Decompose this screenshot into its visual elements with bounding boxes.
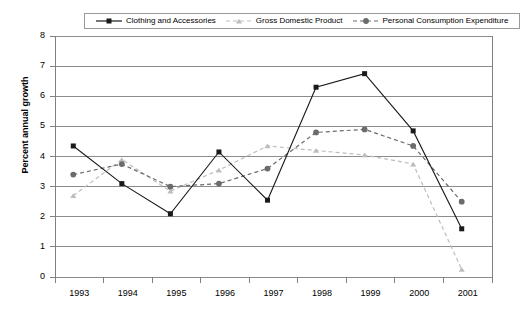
legend-entry: Personal Consumption Expenditure <box>353 16 509 26</box>
data-point-square <box>411 128 416 133</box>
data-point-square <box>168 211 173 216</box>
y-axis-tick-label: 1 <box>21 242 45 251</box>
data-point-triangle <box>216 168 222 173</box>
x-axis-tick-label: 1997 <box>254 289 294 298</box>
data-point-square <box>216 149 221 154</box>
legend-swatch <box>96 16 122 26</box>
data-point-square <box>71 143 76 148</box>
data-point-square <box>265 198 270 203</box>
y-axis-tick-label: 2 <box>21 212 45 221</box>
x-axis-tick-label: 1994 <box>108 289 148 298</box>
y-axis-tick-label: 0 <box>21 272 45 281</box>
legend-swatch <box>226 16 252 26</box>
data-point-square <box>459 226 464 231</box>
data-point-square <box>362 71 367 76</box>
legend-marker-icon <box>226 16 252 26</box>
x-axis-tick-label: 1993 <box>59 289 99 298</box>
legend-entry: Gross Domestic Product <box>226 16 343 26</box>
x-axis-tick-label: 2001 <box>448 289 488 298</box>
y-axis-tick-label: 7 <box>21 61 45 70</box>
y-axis-tick-label: 6 <box>21 91 45 100</box>
y-axis-tick-label: 3 <box>21 182 45 191</box>
legend-label: Clothing and Accessories <box>126 16 216 26</box>
data-point-circle <box>363 18 369 24</box>
y-axis-tick-label: 5 <box>21 121 45 130</box>
x-axis-tick-label: 1995 <box>156 289 196 298</box>
x-axis-tick-label: 1996 <box>205 289 245 298</box>
legend-swatch <box>353 16 379 26</box>
y-axis-tick-label: 4 <box>21 152 45 161</box>
data-point-square <box>314 85 319 90</box>
data-point-triangle <box>459 267 465 272</box>
data-point-circle <box>313 130 319 136</box>
data-point-circle <box>265 166 271 172</box>
series-line <box>73 74 461 229</box>
chart-legend: Clothing and AccessoriesGross Domestic P… <box>84 13 520 29</box>
y-axis-tick-label: 8 <box>21 31 45 40</box>
legend-entry: Clothing and Accessories <box>96 16 216 26</box>
data-point-circle <box>459 199 465 205</box>
data-point-circle <box>410 143 416 149</box>
legend-marker-icon <box>96 16 122 26</box>
data-point-circle <box>119 161 125 167</box>
data-point-circle <box>70 172 76 178</box>
x-axis-tick-label: 1999 <box>351 289 391 298</box>
legend-label: Gross Domestic Product <box>256 16 343 26</box>
data-point-circle <box>167 184 173 190</box>
data-point-circle <box>216 181 222 187</box>
data-point-square <box>119 181 124 186</box>
legend-marker-icon <box>353 16 379 26</box>
data-point-triangle <box>410 162 416 167</box>
legend-label: Personal Consumption Expenditure <box>383 16 509 26</box>
x-axis-tick-label: 1998 <box>302 289 342 298</box>
data-point-square <box>107 19 112 24</box>
series-line <box>73 146 461 270</box>
data-point-circle <box>362 126 368 132</box>
x-axis-tick-label: 2000 <box>399 289 439 298</box>
